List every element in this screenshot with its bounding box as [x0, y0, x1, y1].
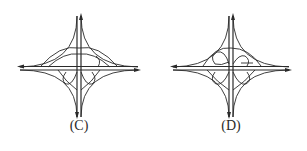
arrow-right-icon [285, 68, 292, 72]
diagram-c: (C) [0, 0, 153, 151]
arrow-left-icon [17, 65, 24, 69]
diagram-d: (D) [153, 0, 307, 151]
arrow-right-icon [134, 68, 141, 72]
figure-caption-c: (C) [59, 118, 99, 134]
arrow-up-icon [79, 13, 83, 20]
arrow-up-icon [231, 13, 235, 20]
figure-caption-d: (D) [211, 118, 251, 134]
arrow-left-icon [170, 65, 177, 69]
